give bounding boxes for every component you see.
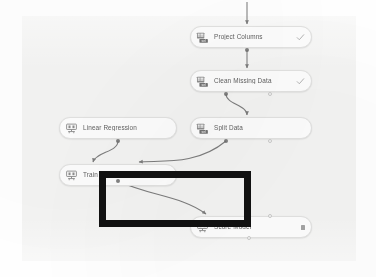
svg-text:sel: sel	[202, 82, 207, 86]
node-status-indicator	[301, 225, 305, 230]
screenshot-root: sel Project Columns sel Clean Missing Da…	[0, 0, 376, 277]
port-clean-missing-output-right[interactable]	[268, 92, 272, 96]
svg-text:sel: sel	[202, 38, 207, 42]
check-icon	[296, 33, 305, 42]
data-transform-icon: sel	[196, 122, 209, 135]
check-icon	[296, 77, 305, 86]
port-split-data-output-right[interactable]	[268, 139, 272, 143]
port-score-model-output[interactable]	[247, 236, 251, 240]
port-linear-regression-output[interactable]	[116, 139, 120, 143]
node-clean-missing-data[interactable]: sel Clean Missing Data	[190, 70, 312, 92]
node-status-indicator	[296, 77, 305, 86]
machine-learning-model-icon	[65, 122, 78, 135]
highlight-rectangle	[99, 171, 251, 227]
node-label: Linear Regression	[83, 125, 170, 131]
node-project-columns[interactable]: sel Project Columns	[190, 26, 312, 48]
machine-learning-model-icon	[65, 169, 78, 182]
node-status-indicator	[296, 33, 305, 42]
port-split-data-output-left[interactable]	[224, 139, 228, 143]
svg-text:sel: sel	[202, 129, 207, 133]
data-transform-icon: sel	[196, 31, 209, 44]
port-score-model-input-right[interactable]	[268, 214, 272, 218]
data-transform-icon: sel	[196, 75, 209, 88]
port-clean-missing-output-left[interactable]	[224, 92, 228, 96]
node-label: Project Columns	[214, 34, 292, 40]
port-project-columns-output[interactable]	[245, 48, 249, 52]
nodes-layer: sel Project Columns sel Clean Missing Da…	[0, 0, 376, 277]
node-label: Split Data	[214, 125, 305, 131]
node-split-data[interactable]: sel Split Data	[190, 117, 312, 139]
node-linear-regression[interactable]: Linear Regression	[59, 117, 177, 139]
node-label: Clean Missing Data	[214, 78, 292, 84]
running-chip-icon	[301, 225, 305, 230]
